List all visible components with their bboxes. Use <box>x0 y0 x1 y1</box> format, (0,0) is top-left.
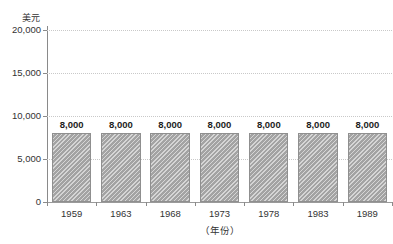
y-axis-tick-label: 10,000 <box>12 111 41 121</box>
x-axis-tick-mark <box>96 202 97 206</box>
y-axis-tick-label: 5,000 <box>17 154 41 164</box>
bar-slot: 8,000 <box>244 30 293 202</box>
x-axis-tick-label: 1978 <box>258 208 279 220</box>
bar-slot: 8,000 <box>343 30 392 202</box>
y-axis-unit-label: 美元 <box>22 13 40 24</box>
bar[interactable] <box>249 133 288 202</box>
x-axis-tick-label: 1973 <box>209 208 230 220</box>
x-axis-title-text: （年份） <box>200 225 240 236</box>
bar-value-label: 8,000 <box>343 119 392 130</box>
x-axis-tick-label: 1963 <box>110 208 131 220</box>
plot-area: 20,00015,00010,0005,0000 8,0008,0008,000… <box>47 30 392 202</box>
y-axis-tick-label: 20,000 <box>12 25 41 35</box>
bar[interactable] <box>150 133 189 202</box>
bar-value-label: 8,000 <box>195 119 244 130</box>
bar[interactable] <box>298 133 337 202</box>
bar-slot: 8,000 <box>96 30 145 202</box>
x-axis-tick-label: 1968 <box>160 208 181 220</box>
bar-slot: 8,000 <box>293 30 342 202</box>
bar-value-label: 8,000 <box>293 119 342 130</box>
x-axis-tick-label: 1983 <box>307 208 328 220</box>
bars-group: 8,0008,0008,0008,0008,0008,0008,000 <box>47 30 392 202</box>
x-axis-tick-mark <box>195 202 196 206</box>
x-axis-tick-mark <box>343 202 344 206</box>
x-axis-tick-mark <box>146 202 147 206</box>
bar-value-label: 8,000 <box>96 119 145 130</box>
bar[interactable] <box>101 133 140 202</box>
x-axis-tick-mark <box>244 202 245 206</box>
bar-slot: 8,000 <box>146 30 195 202</box>
bar-value-label: 8,000 <box>47 119 96 130</box>
bar-value-label: 8,000 <box>244 119 293 130</box>
x-axis-tick-mark <box>293 202 294 206</box>
bar-value-label: 8,000 <box>146 119 195 130</box>
x-axis-title: （年份） <box>0 225 392 237</box>
bar[interactable] <box>200 133 239 202</box>
bar[interactable] <box>52 133 91 202</box>
bar[interactable] <box>348 133 387 202</box>
y-axis-tick-label: 0 <box>36 197 41 207</box>
x-axis-tick-mark <box>47 202 48 206</box>
x-axis-tick-label: 1989 <box>357 208 378 220</box>
gridline <box>47 202 392 203</box>
x-axis-tick-label: 1959 <box>61 208 82 220</box>
y-axis-tick-label: 15,000 <box>12 68 41 78</box>
chart-title-clipped <box>0 0 392 5</box>
bar-slot: 8,000 <box>47 30 96 202</box>
bar-slot: 8,000 <box>195 30 244 202</box>
